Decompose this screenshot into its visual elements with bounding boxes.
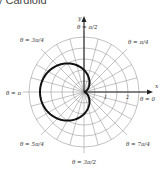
angle-label-pi-over-2: θ = π/2	[77, 24, 98, 30]
angle-label-7pi-over-4: θ = 7π/4	[126, 141, 150, 147]
angle-label-0: θ = 0	[140, 96, 155, 102]
grid-radial-line	[84, 92, 112, 140]
angle-label-5pi-over-4: θ = 5π/4	[20, 141, 44, 147]
x-axis-arrow-icon	[147, 90, 153, 95]
grid-radial-line	[57, 44, 85, 92]
angle-label-pi: θ = π	[6, 90, 21, 96]
grid-radial-line	[84, 44, 112, 92]
grid-radial-line	[31, 92, 84, 106]
grid-radial-line	[84, 78, 137, 92]
grid-radial-line	[41, 49, 84, 92]
tick-label-2: 2	[125, 94, 129, 100]
polar-plot: x y 1 2 θ = 0 θ = π/4 θ = π/2 θ = 3π/4 θ…	[0, 0, 166, 173]
angle-label-pi-over-4: θ = π/4	[128, 39, 149, 45]
grid-radial-line	[84, 92, 132, 120]
tick-label-1: 1	[104, 94, 107, 100]
grid-radial-line	[84, 65, 132, 93]
angle-label-3pi-over-4: θ = 3π/4	[20, 37, 44, 43]
grid-radial-line	[41, 92, 84, 135]
grid-radial-line	[31, 78, 84, 92]
grid-radial-line	[84, 49, 127, 92]
angle-label-3pi-over-2: θ = 3π/2	[72, 159, 96, 165]
grid-radial-line	[57, 92, 85, 140]
grid-radial-line	[84, 39, 98, 92]
y-axis-arrow-icon	[82, 16, 87, 22]
grid-radial-line	[84, 92, 98, 145]
y-axis-label: y	[77, 14, 82, 22]
x-axis-label: x	[155, 82, 159, 89]
